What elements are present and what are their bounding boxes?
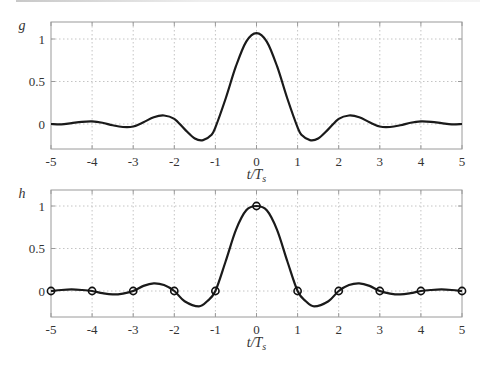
axes-box bbox=[51, 22, 462, 149]
x-tick-label: -1 bbox=[210, 154, 221, 169]
x-tick-label: -3 bbox=[128, 154, 139, 169]
x-tick-label: -1 bbox=[210, 322, 221, 337]
x-axis-label: t/Ts bbox=[247, 167, 267, 184]
x-axis-label-subscript: s bbox=[262, 341, 266, 352]
x-axis-label: t/Ts bbox=[247, 335, 267, 352]
y-tick-label: 0.5 bbox=[29, 241, 45, 256]
y-tick-label: 1 bbox=[39, 199, 46, 214]
chart-figure: -5-4-3-2-101234500.51gt/Ts -5-4-3-2-1012… bbox=[0, 0, 486, 367]
y-axis-label: g bbox=[19, 18, 26, 33]
x-axis-label-subscript: s bbox=[262, 173, 266, 184]
x-tick-label: -5 bbox=[46, 154, 57, 169]
x-tick-label: -2 bbox=[169, 154, 180, 169]
y-tick-label: 1 bbox=[39, 32, 46, 47]
x-tick-label: 1 bbox=[294, 154, 301, 169]
x-tick-label: -3 bbox=[128, 322, 139, 337]
y-tick-label: 0 bbox=[39, 284, 46, 299]
x-tick-label: 5 bbox=[459, 154, 466, 169]
x-tick-label: -4 bbox=[87, 154, 98, 169]
x-tick-label: 2 bbox=[335, 322, 342, 337]
x-tick-label: 3 bbox=[377, 322, 384, 337]
y-tick-label: 0 bbox=[39, 117, 46, 132]
x-tick-label: 4 bbox=[418, 154, 425, 169]
x-tick-label: 1 bbox=[294, 322, 301, 337]
y-tick-label: 0.5 bbox=[29, 74, 45, 89]
y-axis-label: h bbox=[19, 186, 26, 201]
x-tick-label: -2 bbox=[169, 322, 180, 337]
x-tick-label: 5 bbox=[459, 322, 466, 337]
plot-g: -5-4-3-2-101234500.51gt/Ts bbox=[19, 18, 466, 184]
x-tick-label: 2 bbox=[335, 154, 342, 169]
x-tick-label: 3 bbox=[377, 154, 384, 169]
x-tick-label: -5 bbox=[46, 322, 57, 337]
plot-h: -5-4-3-2-101234500.51ht/Ts bbox=[19, 186, 466, 352]
x-tick-label: 4 bbox=[418, 322, 425, 337]
x-tick-label: -4 bbox=[87, 322, 98, 337]
